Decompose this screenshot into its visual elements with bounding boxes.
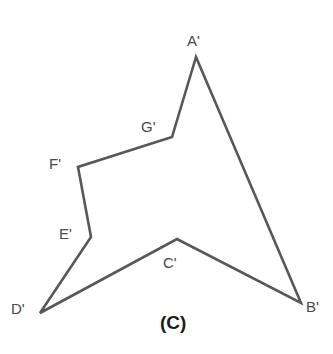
polygon-drawing xyxy=(0,0,333,354)
vertex-label-b: B' xyxy=(306,299,319,314)
figure-caption: (C) xyxy=(160,313,186,332)
vertex-label-c: C' xyxy=(163,255,177,270)
vertex-label-f: F' xyxy=(49,156,61,171)
vertex-label-d: D' xyxy=(11,301,25,316)
vertex-label-a: A' xyxy=(187,33,200,48)
polygon-shape xyxy=(40,57,301,313)
vertex-label-e: E' xyxy=(59,226,72,241)
geometry-figure: A'B'C'D'E'F'G' (C) xyxy=(0,0,333,354)
vertex-label-g: G' xyxy=(141,119,156,134)
